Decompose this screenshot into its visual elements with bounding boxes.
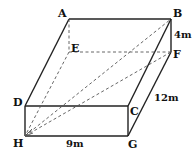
label-a: A: [57, 7, 67, 20]
edge-ad: [25, 19, 69, 106]
label-d: D: [13, 96, 23, 109]
dimension-depth: 12m: [154, 92, 179, 103]
label-b: B: [173, 7, 182, 20]
box-diagram: A B E F D C H G 4m 12m 9m: [0, 0, 196, 158]
label-f: F: [173, 48, 181, 61]
label-c: C: [130, 105, 139, 118]
diagonal-hb: [25, 19, 171, 136]
label-g: G: [128, 138, 137, 151]
dimension-height: 4m: [174, 29, 192, 40]
dimension-width: 9m: [66, 138, 84, 149]
label-h: H: [13, 137, 23, 150]
label-e: E: [71, 42, 79, 55]
